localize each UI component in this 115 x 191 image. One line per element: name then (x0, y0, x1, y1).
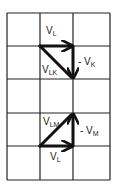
vector-diagram: VL - VK VLK VLM - VM VL (0, 0, 115, 191)
label-vlk: VLK (42, 64, 58, 76)
label-vl-lower: VL (50, 151, 61, 163)
grid (7, 13, 110, 180)
label-vl-upper: VL (46, 25, 57, 37)
label-neg-vm: - VM (80, 125, 99, 137)
label-vlm: VLM (43, 116, 60, 128)
label-neg-vk: - VK (78, 56, 96, 68)
